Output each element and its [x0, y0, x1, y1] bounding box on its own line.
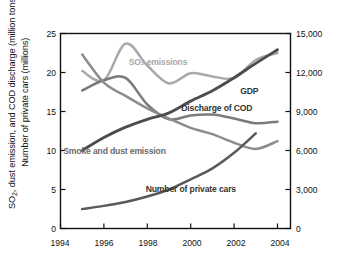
series-label-discharge-of-cod: Discharge of COD — [181, 103, 252, 113]
series-label-gdp: GDP — [240, 86, 258, 96]
series-label-number-of-private-cars: Number of private cars — [146, 184, 236, 194]
series-label-so2-emissions: SO₂ emissions — [129, 57, 188, 67]
series-label-smoke-and-dust-emission: Smoke and dust emission — [63, 146, 166, 156]
series-line-discharge-of-cod — [82, 76, 277, 123]
chart-figure: SO2, dust emission, and COD discharge (m… — [0, 0, 359, 278]
series-line-number-of-private-cars — [82, 133, 256, 209]
plot-area — [0, 0, 359, 278]
